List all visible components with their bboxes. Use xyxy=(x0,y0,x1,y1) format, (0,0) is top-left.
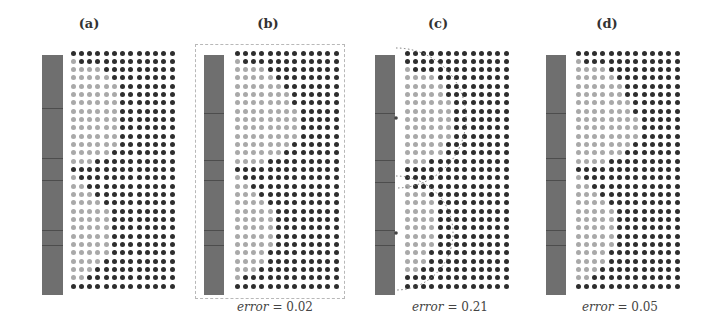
light-dot xyxy=(268,142,273,147)
dark-dot xyxy=(479,192,484,197)
light-dot xyxy=(617,109,622,114)
dark-dot xyxy=(658,142,663,147)
dark-dot xyxy=(487,275,492,280)
dark-dot xyxy=(495,234,500,239)
dark-dot xyxy=(658,59,663,64)
dark-dot xyxy=(276,192,281,197)
dark-dot xyxy=(617,192,622,197)
dark-dot xyxy=(405,59,410,64)
dark-dot xyxy=(112,259,117,264)
light-dot xyxy=(405,150,410,155)
light-dot xyxy=(87,259,92,264)
dark-dot xyxy=(153,192,158,197)
dark-dot xyxy=(112,184,117,189)
bar-tick xyxy=(375,230,395,231)
light-dot xyxy=(405,217,410,222)
dark-dot xyxy=(161,259,166,264)
light-dot xyxy=(87,100,92,105)
dark-dot xyxy=(128,225,133,230)
dark-dot xyxy=(405,175,410,180)
light-dot xyxy=(87,250,92,255)
light-dot xyxy=(429,125,434,130)
dark-dot xyxy=(170,284,175,289)
dark-dot xyxy=(301,192,306,197)
gray-bar xyxy=(375,55,395,295)
dark-dot xyxy=(462,84,467,89)
dark-dot xyxy=(95,275,100,280)
dark-dot xyxy=(292,259,297,264)
light-dot xyxy=(600,92,605,97)
dark-dot xyxy=(471,109,476,114)
dark-dot xyxy=(276,159,281,164)
light-dot xyxy=(79,234,84,239)
light-dot xyxy=(268,242,273,247)
light-dot xyxy=(405,117,410,122)
dark-dot xyxy=(471,217,476,222)
dark-dot xyxy=(658,167,663,172)
light-dot xyxy=(87,159,92,164)
dark-dot xyxy=(479,67,484,72)
dark-dot xyxy=(413,67,418,72)
dark-dot xyxy=(471,234,476,239)
light-dot xyxy=(413,159,418,164)
light-dot xyxy=(617,134,622,139)
dark-dot xyxy=(650,259,655,264)
dark-dot xyxy=(112,200,117,205)
light-dot xyxy=(87,125,92,130)
dark-dot xyxy=(462,51,467,56)
dark-dot xyxy=(446,250,451,255)
dark-dot xyxy=(317,51,322,56)
dark-dot xyxy=(479,92,484,97)
dark-dot xyxy=(495,134,500,139)
light-dot xyxy=(87,267,92,272)
dark-dot xyxy=(268,59,273,64)
light-dot xyxy=(446,100,451,105)
dark-dot xyxy=(658,250,663,255)
light-dot xyxy=(71,92,76,97)
light-dot xyxy=(79,100,84,105)
dark-dot xyxy=(413,275,418,280)
dark-dot xyxy=(112,217,117,222)
dark-dot xyxy=(104,67,109,72)
dark-dot xyxy=(120,284,125,289)
light-dot xyxy=(104,92,109,97)
dark-dot xyxy=(421,167,426,172)
dark-dot xyxy=(675,117,680,122)
dark-dot xyxy=(112,167,117,172)
light-dot xyxy=(584,100,589,105)
dark-dot xyxy=(617,159,622,164)
dark-dot xyxy=(454,234,459,239)
light-dot xyxy=(413,75,418,80)
dark-dot xyxy=(642,225,647,230)
dark-dot xyxy=(153,92,158,97)
dark-dot xyxy=(309,192,314,197)
dark-dot xyxy=(153,59,158,64)
dark-dot xyxy=(666,142,671,147)
dark-dot xyxy=(145,209,150,214)
dark-dot xyxy=(421,284,426,289)
light-dot xyxy=(71,175,76,180)
light-dot xyxy=(592,109,597,114)
light-dot xyxy=(617,142,622,147)
dark-dot xyxy=(334,159,339,164)
bar-tick xyxy=(42,180,63,181)
light-dot xyxy=(95,92,100,97)
dark-dot xyxy=(584,59,589,64)
dark-dot xyxy=(170,192,175,197)
light-dot xyxy=(592,75,597,80)
dark-dot xyxy=(243,167,248,172)
dark-dot xyxy=(137,284,142,289)
light-dot xyxy=(251,234,256,239)
bar-tick xyxy=(375,182,395,183)
dark-dot xyxy=(666,100,671,105)
dark-dot xyxy=(633,250,638,255)
dark-dot xyxy=(625,242,630,247)
light-dot xyxy=(112,134,117,139)
light-dot xyxy=(235,250,240,255)
light-dot xyxy=(79,159,84,164)
panel-label-a: (a) xyxy=(79,16,100,31)
light-dot xyxy=(584,75,589,80)
dark-dot xyxy=(625,275,630,280)
light-dot xyxy=(609,84,614,89)
light-dot xyxy=(268,209,273,214)
